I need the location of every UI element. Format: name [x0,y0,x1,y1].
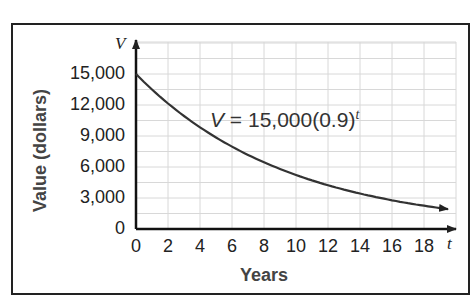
plot-area [0,0,476,305]
x-tick-label: 18 [409,236,439,257]
x-tick-label: 14 [345,236,375,257]
x-tick-label: 0 [121,236,151,257]
y-tick-label: 12,000 [45,94,125,115]
y-tick-label: 0 [45,218,125,239]
y-tick-label: 9,000 [45,125,125,146]
x-tick-label: 8 [249,236,279,257]
x-tick-label: 4 [185,236,215,257]
y-tick-label: 6,000 [45,156,125,177]
eq-lhs: V [210,108,224,131]
y-axis-variable: V [115,34,125,54]
y-tick-label: 15,000 [45,63,125,84]
x-tick-label: 12 [313,236,343,257]
equation-label: V = 15,000(0.9)t [210,107,359,132]
x-tick-label: 10 [281,236,311,257]
x-tick-label: 6 [217,236,247,257]
y-axis-title: Value (dollars) [30,71,51,231]
x-axis-variable: t [447,234,452,254]
x-tick-label: 2 [153,236,183,257]
eq-equals: = [230,108,242,131]
y-tick-label: 3,000 [45,187,125,208]
series-line [136,74,448,209]
x-axis-title: Years [240,265,288,286]
eq-rhs: 15,000(0.9) [248,108,355,131]
eq-exponent: t [355,107,359,122]
x-tick-label: 16 [377,236,407,257]
